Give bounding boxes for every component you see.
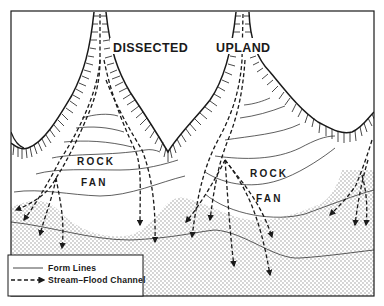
label-upland: UPLAND: [216, 41, 270, 55]
rock-fan-diagram: DISSECTED UPLAND ROCK FAN ROCK FAN Form …: [0, 0, 384, 306]
dissected-upland-ridges: [11, 12, 375, 162]
label-fan-right: FAN: [256, 193, 283, 204]
legend-stream-flood-channel: Stream–Flood Channel: [48, 275, 146, 285]
legend: Form Lines Stream–Flood Channel: [8, 255, 146, 296]
legend-form-lines: Form Lines: [48, 263, 96, 273]
label-dissected: DISSECTED: [113, 41, 188, 55]
label-fan-left: FAN: [81, 177, 108, 188]
label-rock-right: ROCK: [250, 168, 288, 179]
label-rock-left: ROCK: [77, 156, 115, 167]
